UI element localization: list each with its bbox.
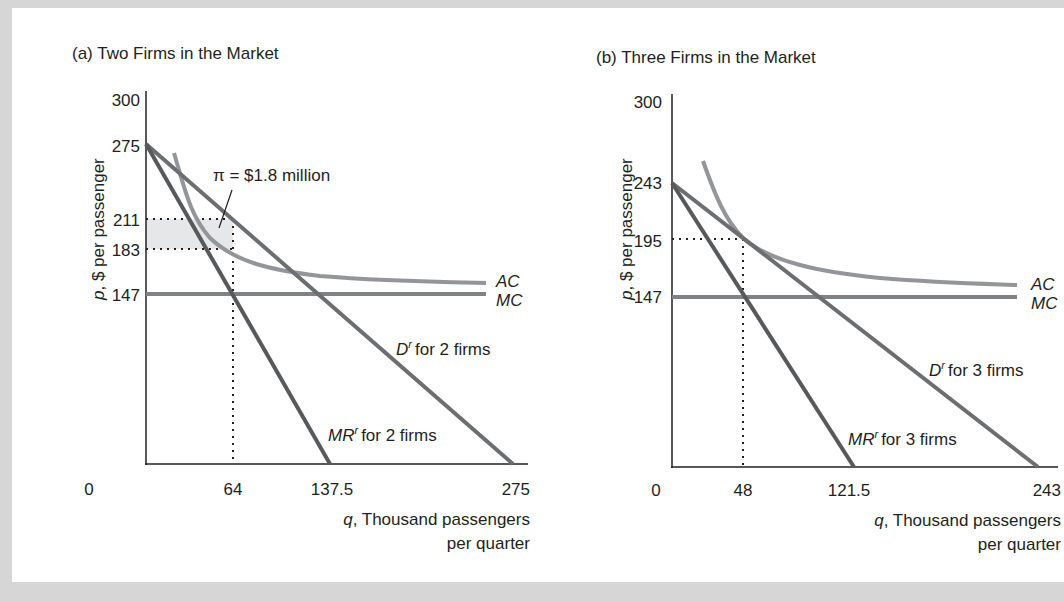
x-tick-48: 48 — [734, 481, 753, 500]
demand-curve — [146, 144, 513, 464]
x-tick-0-b: 0 — [651, 481, 660, 500]
panel-a-title: (a) Two Firms in the Market — [72, 44, 279, 63]
figure-svg: (a) Two Firms in the Market p, $ per pas… — [0, 0, 1064, 602]
panel-b-xlabel: q, Thousand passengers — [874, 511, 1061, 530]
panel-b-title: (b) Three Firms in the Market — [596, 48, 816, 67]
ac-label-b: AC — [1030, 275, 1055, 294]
demand-curve-b — [672, 183, 1038, 467]
ac-label: AC — [495, 272, 520, 291]
y-tick-300-b: 300 — [634, 93, 662, 112]
y-tick-147: 147 — [112, 286, 140, 305]
panel-b-xlabel-line2: per quarter — [978, 535, 1061, 554]
mr-label: MRrfor 2 firms — [328, 424, 437, 445]
x-tick-243: 243 — [1033, 481, 1061, 500]
ac-curve-b — [703, 161, 1017, 285]
x-tick-121-5: 121.5 — [828, 481, 871, 500]
panel-a-xlabel: q, Thousand passengers — [343, 510, 530, 529]
demand-label: Drfor 2 firms — [396, 338, 491, 359]
profit-label: π = $1.8 million — [213, 166, 330, 185]
y-tick-183: 183 — [112, 241, 140, 260]
demand-label-b: Drfor 3 firms — [929, 359, 1024, 380]
mr-curve — [146, 144, 330, 464]
mc-label-b: MC — [1031, 294, 1058, 313]
mc-label: MC — [496, 291, 523, 310]
panel-a-ylabel: p, $ per passenger — [89, 158, 108, 301]
y-tick-195: 195 — [634, 232, 662, 251]
panel-a: (a) Two Firms in the Market p, $ per pas… — [72, 44, 530, 553]
panel-b: (b) Three Firms in the Market p, $ per p… — [596, 48, 1061, 554]
x-tick-137-5: 137.5 — [311, 480, 354, 499]
panel-a-xlabel-line2: per quarter — [447, 534, 530, 553]
mr-curve-b — [672, 183, 854, 467]
x-tick-0: 0 — [84, 480, 93, 499]
y-tick-243: 243 — [634, 174, 662, 193]
x-tick-275: 275 — [502, 480, 530, 499]
y-tick-211: 211 — [113, 211, 140, 230]
mr-label-b: MRrfor 3 firms — [848, 428, 957, 449]
y-tick-147-b: 147 — [634, 288, 662, 307]
y-tick-300: 300 — [112, 91, 140, 110]
x-tick-64: 64 — [224, 480, 243, 499]
y-tick-275: 275 — [112, 137, 140, 156]
